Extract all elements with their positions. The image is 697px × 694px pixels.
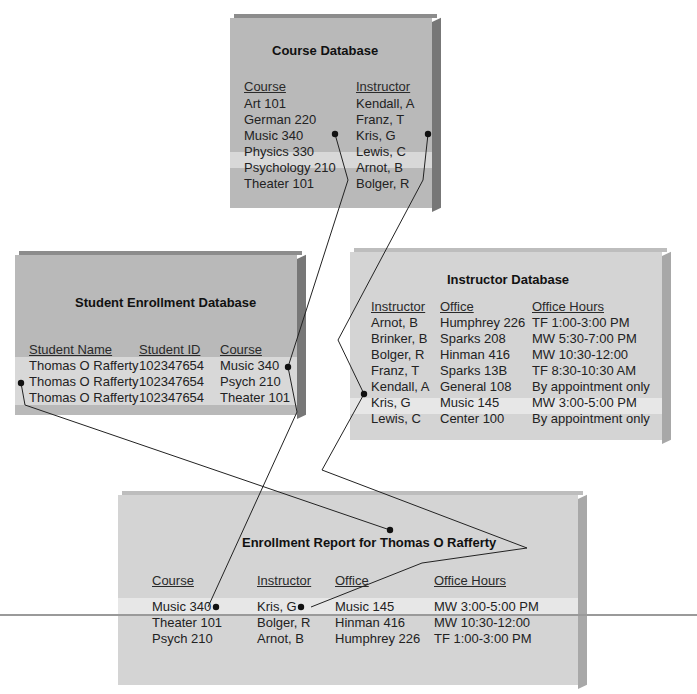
office-hours-cell: TF 1:00-3:00 PM [434, 631, 532, 646]
office-hours-cell: By appointment only [532, 379, 650, 394]
instructor-cell: Arnot, B [371, 315, 418, 330]
office-hours-cell: MW 5:30-7:00 PM [532, 331, 637, 346]
column-header-office: Office [335, 573, 369, 588]
office-cell: Humphrey 226 [440, 315, 525, 330]
office-cell: General 108 [440, 379, 512, 394]
column-header-instructor: Instructor [356, 79, 410, 94]
course-cell: Theater 101 [152, 615, 222, 630]
course-cell: Music 340 [244, 128, 303, 143]
office-hours-cell: By appointment only [532, 411, 650, 426]
box-bevel-right [662, 252, 671, 444]
course-cell: Physics 330 [244, 144, 314, 159]
office-hours-cell: TF 8:30-10:30 AM [532, 363, 636, 378]
office-hours-cell: MW 10:30-12:00 [532, 347, 628, 362]
column-header-office-hours: Office Hours [532, 299, 604, 314]
course-cell: Music 340 [152, 599, 211, 614]
instructor-cell: Bolger, R [257, 615, 310, 630]
page-rule-line [0, 614, 697, 616]
student-id-cell: 102347654 [139, 358, 204, 373]
student-id-cell: 102347654 [139, 390, 204, 405]
course-cell: Psychology 210 [244, 160, 336, 175]
office-hours-cell: MW 3:00-5:00 PM [434, 599, 539, 614]
office-hours-cell: TF 1:00-3:00 PM [532, 315, 630, 330]
office-cell: Sparks 208 [440, 331, 506, 346]
box-bevel-right [578, 495, 587, 689]
student-enrollment-database-box: Student Enrollment Database Student Name… [15, 255, 297, 415]
office-hours-cell: MW 3:00-5:00 PM [532, 395, 637, 410]
instructor-cell: Arnot, B [356, 160, 403, 175]
column-header-instructor: Instructor [371, 299, 425, 314]
course-cell: Art 101 [244, 96, 286, 111]
course-cell: Psych 210 [220, 374, 281, 389]
enrollment-report-title: Enrollment Report for Thomas O Rafferty [242, 535, 496, 550]
student-enrollment-database-title: Student Enrollment Database [75, 295, 256, 310]
column-header-instructor: Instructor [257, 573, 311, 588]
column-header-office: Office [440, 299, 474, 314]
instructor-cell: Bolger, R [371, 347, 424, 362]
column-header-student-id: Student ID [139, 342, 200, 357]
course-database-box: Course Database Course Instructor Art 10… [230, 18, 432, 208]
instructor-cell: Arnot, B [257, 631, 304, 646]
column-header-course: Course [220, 342, 262, 357]
office-cell: Music 145 [440, 395, 499, 410]
instructor-cell: Kendall, A [371, 379, 430, 394]
enrollment-report-box: Enrollment Report for Thomas O Rafferty … [118, 495, 578, 685]
instructor-cell: Kris, G [371, 395, 411, 410]
course-database-title: Course Database [272, 43, 378, 58]
office-cell: Sparks 13B [440, 363, 507, 378]
student-name-cell: Thomas O Rafferty [29, 358, 139, 373]
course-cell: Theater 101 [220, 390, 290, 405]
instructor-cell: Franz, T [371, 363, 419, 378]
course-cell: Music 340 [220, 358, 279, 373]
office-cell: Humphrey 226 [335, 631, 420, 646]
instructor-cell: Brinker, B [371, 331, 427, 346]
instructor-cell: Lewis, C [356, 144, 406, 159]
instructor-cell: Kendall, A [356, 96, 415, 111]
instructor-cell: Bolger, R [356, 176, 409, 191]
course-cell: Psych 210 [152, 631, 213, 646]
instructor-cell: Lewis, C [371, 411, 421, 426]
instructor-database-title: Instructor Database [447, 272, 569, 287]
instructor-cell: Franz, T [356, 112, 404, 127]
office-hours-cell: MW 10:30-12:00 [434, 615, 530, 630]
student-name-cell: Thomas O Rafferty [29, 374, 139, 389]
box-bevel-top [19, 251, 302, 255]
office-cell: Hinman 416 [335, 615, 405, 630]
instructor-cell: Kris, G [356, 128, 396, 143]
box-bevel-top [122, 491, 583, 495]
box-bevel-right [297, 255, 306, 419]
column-header-office-hours: Office Hours [434, 573, 506, 588]
course-cell: German 220 [244, 112, 316, 127]
instructor-database-box: Instructor Database Instructor Office Of… [350, 252, 662, 440]
box-bevel-top [354, 248, 667, 252]
office-cell: Music 145 [335, 599, 394, 614]
office-cell: Center 100 [440, 411, 504, 426]
column-header-course: Course [152, 573, 194, 588]
box-bevel-top [234, 14, 437, 18]
course-cell: Theater 101 [244, 176, 314, 191]
column-header-student-name: Student Name [29, 342, 112, 357]
instructor-cell: Kris, G [257, 599, 297, 614]
column-header-course: Course [244, 79, 286, 94]
student-id-cell: 102347654 [139, 374, 204, 389]
box-bevel-right [432, 18, 441, 212]
student-name-cell: Thomas O Rafferty [29, 390, 139, 405]
office-cell: Hinman 416 [440, 347, 510, 362]
